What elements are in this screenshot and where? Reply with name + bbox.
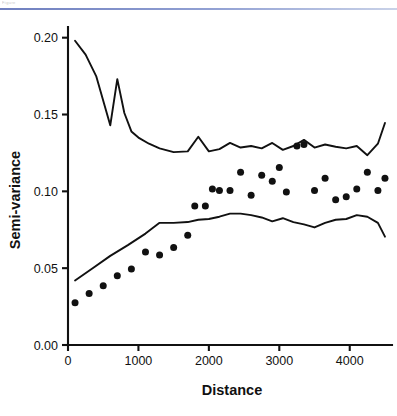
y-tick-label: 0.10	[34, 185, 58, 199]
data-point	[128, 265, 135, 272]
chart-container: 0.000.050.100.150.20 01000200030004000 S…	[0, 10, 397, 416]
data-point	[269, 178, 276, 185]
series-line-upper-line	[75, 41, 385, 155]
data-point	[142, 249, 149, 256]
data-point	[258, 172, 265, 179]
data-point	[293, 143, 300, 150]
data-point	[209, 186, 216, 193]
x-tick-label: 0	[65, 354, 72, 368]
data-point	[276, 164, 283, 171]
y-tick-label: 0.05	[34, 262, 58, 276]
y-tick-label: 0.00	[34, 339, 58, 353]
data-point	[114, 272, 121, 279]
figure-header-caption: Figure	[2, 0, 16, 5]
data-point	[311, 187, 318, 194]
y-tick-label: 0.20	[34, 31, 58, 45]
x-tick-label: 4000	[336, 354, 364, 368]
data-point	[364, 169, 371, 176]
data-point	[86, 290, 93, 297]
data-point	[381, 175, 388, 182]
x-tick-label: 2000	[195, 354, 223, 368]
y-axis: 0.000.050.100.150.20	[34, 27, 68, 353]
y-axis-title: Semi-variance	[7, 151, 23, 249]
data-point	[353, 186, 360, 193]
data-point	[191, 202, 198, 209]
data-point	[202, 202, 209, 209]
chart-series-group	[72, 41, 389, 306]
series-line-lower-line	[75, 214, 385, 281]
data-point	[248, 192, 255, 199]
data-point	[156, 252, 163, 259]
x-tick-label: 3000	[265, 354, 293, 368]
data-point	[170, 244, 177, 251]
data-point	[184, 232, 191, 239]
data-point	[227, 187, 234, 194]
data-point	[300, 141, 307, 148]
y-tick-label: 0.15	[34, 108, 58, 122]
x-tick-label: 1000	[125, 354, 153, 368]
semivariogram-chart: 0.000.050.100.150.20 01000200030004000 S…	[0, 10, 397, 416]
x-axis-title: Distance	[202, 382, 262, 398]
data-point	[100, 282, 107, 289]
data-point	[216, 187, 223, 194]
data-point	[72, 299, 79, 306]
data-point	[237, 169, 244, 176]
data-point	[283, 189, 290, 196]
data-point	[374, 187, 381, 194]
x-axis: 01000200030004000	[65, 345, 392, 368]
data-point	[343, 193, 350, 200]
data-point	[322, 175, 329, 182]
scatter-series-points	[72, 141, 389, 306]
figure-header-band: Figure	[0, 0, 397, 10]
data-point	[332, 196, 339, 203]
